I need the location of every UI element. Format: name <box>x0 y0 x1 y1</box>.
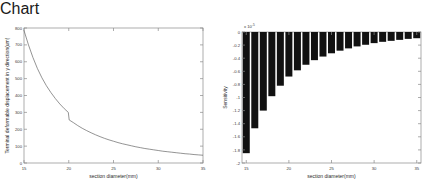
y-tick-label: -1.8 <box>233 148 241 153</box>
bar <box>337 32 344 51</box>
y-tick-label: 700 <box>15 42 23 47</box>
x-tick-label: 20 <box>287 166 292 171</box>
bar <box>294 32 301 70</box>
y-axis-label: Terminal deformable displacement in y di… <box>4 37 10 153</box>
chart-panel-b: 15202530350-0.2-0.4-0.6-0.8-1-1.2-1.4-1.… <box>215 18 430 194</box>
bar <box>268 32 275 96</box>
bar <box>354 32 361 46</box>
x-tick-label: 15 <box>244 166 249 171</box>
bar <box>388 32 395 41</box>
bar <box>302 32 309 65</box>
x-tick-label: 25 <box>111 166 116 171</box>
y-tick-label: -0.2 <box>233 43 241 48</box>
y-tick-label: 300 <box>15 110 23 115</box>
bar <box>379 32 386 42</box>
y-tick-label: -0.6 <box>233 69 241 74</box>
bar <box>405 32 412 39</box>
y-tick-label: -1.2 <box>233 108 241 113</box>
y-tick-label: 600 <box>15 59 23 64</box>
bar <box>311 32 318 60</box>
y-tick-label: -1.4 <box>233 121 241 126</box>
bar <box>319 32 326 57</box>
y-tick-label: 200 <box>15 127 23 132</box>
x-tick-label: 25 <box>329 166 334 171</box>
y-tick-label: -0.8 <box>233 82 241 87</box>
bar <box>362 32 369 45</box>
bar-chart-b: 15202530350-0.2-0.4-0.6-0.8-1-1.2-1.4-1.… <box>215 18 430 188</box>
y-tick-label: -2 <box>236 161 240 166</box>
y-tick-label: 400 <box>15 93 23 98</box>
x-tick-label: 35 <box>201 166 206 171</box>
y-tick-label: -0.4 <box>233 56 241 61</box>
x-axis-label: section diameter(mm) <box>89 173 138 179</box>
bar <box>328 32 335 53</box>
x-axis-label: section diameter(mm) <box>307 173 356 179</box>
x-tick-label: 30 <box>156 166 161 171</box>
bar <box>396 32 403 40</box>
y-tick-label: 0 <box>238 30 241 35</box>
x-tick-label: 15 <box>22 166 27 171</box>
x-tick-label: 30 <box>372 166 377 171</box>
figure-container: 15202530350100200300400500600700800secti… <box>0 18 430 194</box>
y-tick-label: 0 <box>20 161 23 166</box>
data-curve <box>24 31 203 156</box>
line-chart-a: 15202530350100200300400500600700800secti… <box>0 18 215 188</box>
bar <box>251 32 258 128</box>
y-tick-label: -1.6 <box>233 134 241 139</box>
x-tick-label: 35 <box>414 166 419 171</box>
bar <box>277 32 284 86</box>
y-axis-label: Sensitivity <box>222 86 228 109</box>
chart-panel-a: 15202530350100200300400500600700800secti… <box>0 18 215 194</box>
plot-border <box>24 28 203 163</box>
bar <box>260 32 267 111</box>
y-tick-label: -1 <box>236 95 240 100</box>
y-tick-label: 100 <box>15 144 23 149</box>
bar <box>243 32 250 153</box>
bar <box>285 32 292 77</box>
bar <box>345 32 352 48</box>
x-tick-label: 20 <box>66 166 71 171</box>
y-axis-exponent: x 10-5 <box>244 23 255 29</box>
y-tick-label: 800 <box>15 26 23 31</box>
y-tick-label: 500 <box>15 76 23 81</box>
